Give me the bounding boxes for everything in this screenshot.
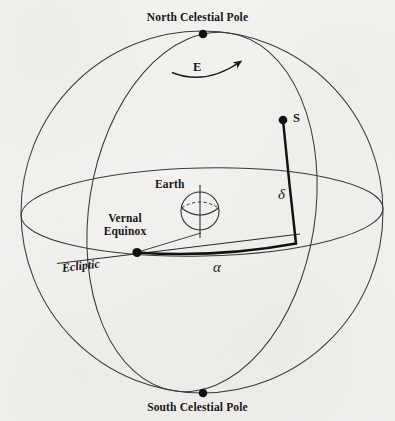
celestial-sphere-outline [21, 31, 383, 393]
declination-arc [283, 120, 296, 244]
star-label: S [293, 111, 300, 125]
south-celestial-pole-point [199, 389, 208, 398]
rotation-arrow [172, 62, 240, 77]
vernal-equinox-label-line2: Equinox [80, 225, 170, 238]
rotation-direction-label: E [193, 60, 201, 74]
vernal-equinox-label: Vernal Equinox [80, 212, 170, 238]
declination-label: δ [278, 186, 285, 203]
north-celestial-pole-label: North Celestial Pole [0, 11, 395, 24]
star-point [279, 116, 288, 125]
right-ascension-label: α [213, 259, 221, 276]
vernal-equinox-point [132, 248, 141, 257]
vernal-equinox-label-line1: Vernal [80, 212, 170, 225]
celestial-sphere-figure: North Celestial Pole South Celestial Pol… [0, 0, 395, 421]
earth-label: Earth [155, 178, 185, 191]
north-celestial-pole-point [199, 30, 208, 39]
south-celestial-pole-label: South Celestial Pole [0, 401, 395, 414]
